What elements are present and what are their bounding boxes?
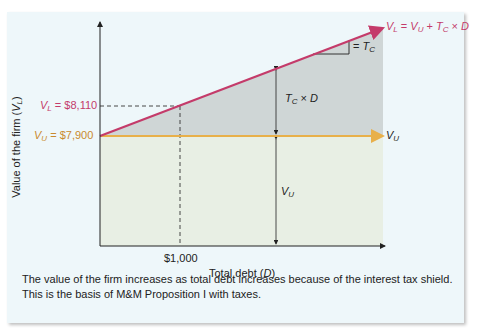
vl-value-label: VL = $8,110 [40, 99, 97, 113]
x-tick-1000: $1,000 [164, 252, 198, 264]
vu-line-label: VU [386, 129, 399, 143]
caption-line-2: This is the basis of M&M Proposition I w… [22, 287, 452, 302]
vl-formula-label: VL = VU + TC × D [386, 20, 469, 34]
tax-shield-label: TC × D [285, 92, 318, 106]
vu-area [100, 136, 383, 246]
caption-line-1: The value of the firm increases as total… [22, 272, 452, 287]
figure-caption: The value of the firm increases as total… [22, 272, 452, 302]
slope-label: = TC [353, 40, 375, 54]
y-axis-label: Value of the firm (VL) [10, 92, 24, 202]
vu-area-label: VU [281, 185, 294, 199]
vu-value-label: VU = $7,900 [34, 129, 93, 143]
